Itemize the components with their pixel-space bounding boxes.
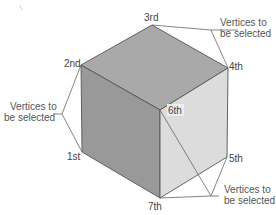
callout-left-line1: Vertices to [10, 101, 57, 112]
vertex-label-2nd: 2nd [64, 58, 81, 69]
vertex-label-7th: 7th [148, 201, 162, 212]
vertex-label-3rd: 3rd [144, 12, 158, 23]
stray-mark [20, 5, 22, 10]
callout-top-right: Vertices to be selected [220, 17, 271, 39]
callout-bottom-right-line2: be selected [224, 195, 275, 206]
callout-top-right-line2: be selected [220, 28, 271, 39]
callout-top-right-line1: Vertices to [220, 17, 267, 28]
callout-bottom-right-line1: Vertices to [224, 184, 271, 195]
vertex-label-1st: 1st [67, 151, 81, 162]
callout-left-line2: be selected [4, 112, 55, 123]
callout-left: Vertices to be selected [4, 101, 57, 123]
callout-bottom-right: Vertices to be selected [224, 184, 275, 206]
callout-left-leaders [54, 65, 82, 152]
vertex-label-6th: 6th [168, 105, 182, 116]
vertex-label-5th: 5th [229, 153, 243, 164]
cube-diagram: 2nd 3rd 4th 6th 1st 5th 7th Vertices to … [0, 0, 276, 215]
vertex-label-4th: 4th [229, 61, 243, 72]
